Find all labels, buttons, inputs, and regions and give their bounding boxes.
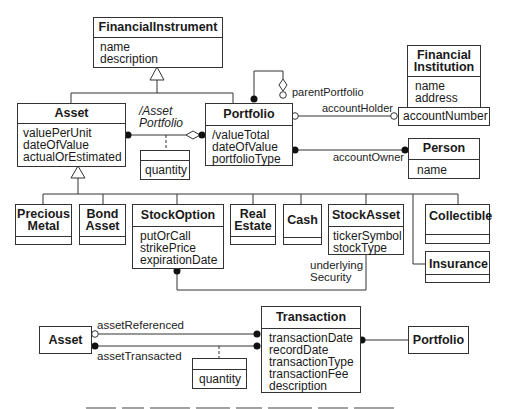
class-transaction[interactable]: Transaction transactionDate recordDate t… bbox=[261, 306, 361, 393]
branch-insurance bbox=[413, 194, 425, 264]
class-attributes: transactionDate recordDate transactionTy… bbox=[262, 329, 360, 395]
label-asset-portfolio: /Asset Portfolio bbox=[139, 105, 183, 129]
association-class-asset-transaction[interactable]: quantity bbox=[192, 358, 247, 389]
class-attributes: valuePerUnit dateOfValue actualOrEstimat… bbox=[18, 124, 125, 166]
class-name: FinancialInstrument bbox=[94, 18, 222, 38]
class-name: Transaction bbox=[262, 307, 360, 329]
attribute: actualOrEstimated bbox=[23, 151, 120, 163]
label-asset-referenced: assetReferenced bbox=[97, 319, 184, 331]
class-name: Person bbox=[409, 139, 479, 160]
class-name: Financial Institution bbox=[408, 46, 480, 77]
class-attributes: name address bbox=[408, 77, 480, 107]
class-bond-asset[interactable]: Bond Asset bbox=[79, 204, 126, 245]
figure-caption-clipped bbox=[86, 402, 406, 409]
class-attributes: name description bbox=[94, 38, 222, 68]
label-line: Security bbox=[310, 271, 363, 283]
caption-glyph-tops bbox=[86, 402, 406, 409]
class-attributes: quantity bbox=[193, 370, 246, 388]
class-attributes: name bbox=[409, 160, 479, 180]
optional-dot-parent-portfolio bbox=[280, 92, 287, 99]
label-account-owner: accountOwner bbox=[333, 151, 404, 163]
class-name: Precious Metal bbox=[16, 205, 71, 237]
label-parent-portfolio: parentPortfolio bbox=[292, 86, 364, 98]
label-line: Portfolio bbox=[139, 117, 183, 129]
association-class-name-compartment bbox=[193, 359, 246, 370]
class-real-estate[interactable]: Real Estate bbox=[230, 204, 276, 245]
class-name: Real Estate bbox=[231, 205, 275, 237]
class-attributes: tickerSymbol stockType bbox=[329, 227, 403, 257]
class-name: Collectible bbox=[426, 205, 489, 235]
attribute: name bbox=[417, 164, 471, 176]
class-portfolio-reference[interactable]: Portfolio bbox=[408, 326, 469, 354]
label-account-holder: accountHolder bbox=[322, 102, 393, 114]
generalization-triangle-asset bbox=[71, 166, 85, 178]
many-dot-parent-portfolio bbox=[251, 96, 258, 103]
many-dot-asset-transacted-transaction-end bbox=[254, 343, 261, 350]
attribute: quantity bbox=[145, 164, 185, 176]
class-name: Insurance bbox=[426, 252, 489, 275]
class-name: Portfolio bbox=[206, 104, 292, 126]
class-name: Asset bbox=[18, 104, 125, 124]
class-portfolio[interactable]: Portfolio /valueTotal dateOfValue portfo… bbox=[205, 103, 293, 166]
association-class-asset-portfolio[interactable]: quantity bbox=[140, 150, 190, 180]
attribute: description bbox=[269, 380, 354, 392]
class-asset-reference[interactable]: Asset bbox=[39, 326, 92, 354]
class-attributes: /valueTotal dateOfValue portfolioType bbox=[206, 126, 292, 168]
class-financial-institution[interactable]: Financial Institution name address bbox=[407, 45, 481, 108]
class-name-line: Metal bbox=[17, 220, 70, 232]
label-asset-transacted: assetTransacted bbox=[97, 350, 182, 362]
class-name: StockOption bbox=[133, 205, 223, 227]
many-dot-asset-referenced-transaction-end bbox=[254, 331, 261, 338]
class-attributes: putOrCall strikePrice expirationDate bbox=[133, 227, 223, 269]
class-stock-asset[interactable]: StockAsset tickerSymbol stockType bbox=[328, 204, 404, 255]
association-class-name-compartment bbox=[141, 151, 189, 161]
class-person[interactable]: Person name bbox=[408, 138, 480, 179]
class-asset[interactable]: Asset valuePerUnit dateOfValue actualOrE… bbox=[17, 103, 126, 167]
optional-dot-asset-referenced bbox=[92, 331, 99, 338]
generalization-triangle-financial-instrument bbox=[150, 67, 164, 80]
class-name: StockAsset bbox=[329, 205, 403, 227]
label-line: underlying bbox=[310, 259, 363, 271]
many-dot-asset-transacted-asset-end bbox=[92, 343, 99, 350]
label-underlying-security: underlying Security bbox=[310, 259, 363, 283]
aggregation-diamond-asset-portfolio bbox=[186, 131, 200, 139]
attribute: description bbox=[100, 53, 217, 65]
class-financial-instrument[interactable]: FinancialInstrument name description bbox=[93, 17, 223, 68]
class-collectible[interactable]: Collectible bbox=[425, 204, 490, 244]
class-name: Bond Asset bbox=[80, 205, 125, 237]
class-cash[interactable]: Cash bbox=[283, 204, 322, 245]
aggregation-diamond-parent-portfolio bbox=[279, 79, 287, 91]
class-name-line: Asset bbox=[81, 220, 124, 232]
class-name: Cash bbox=[284, 205, 321, 238]
attribute: quantity bbox=[199, 373, 240, 385]
qualifier-account-number[interactable]: accountNumber bbox=[398, 107, 490, 126]
class-insurance[interactable]: Insurance bbox=[425, 251, 490, 283]
class-precious-metal[interactable]: Precious Metal bbox=[15, 204, 72, 245]
class-stock-option[interactable]: StockOption putOrCall strikePrice expira… bbox=[132, 204, 224, 269]
class-name-line: Estate bbox=[232, 220, 274, 232]
attribute: address bbox=[415, 92, 475, 104]
attribute: expirationDate bbox=[140, 254, 218, 266]
class-attributes: quantity bbox=[141, 161, 189, 179]
attribute: stockType bbox=[333, 242, 398, 254]
attribute: portfolioType bbox=[212, 153, 287, 165]
class-name-line: Institution bbox=[410, 61, 478, 73]
